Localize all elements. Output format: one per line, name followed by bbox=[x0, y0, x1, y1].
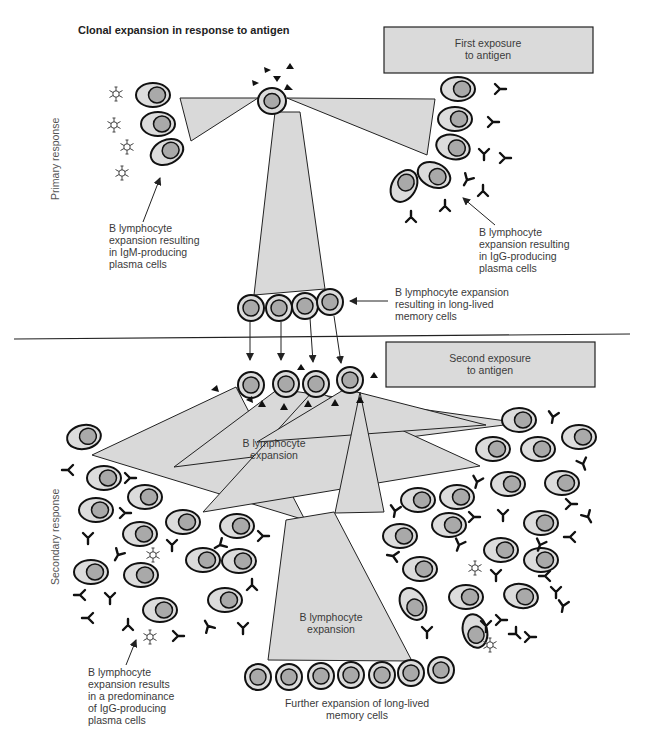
svg-text:B lymphocyte: B lymphocyte bbox=[88, 666, 151, 678]
svg-text:memory cells: memory cells bbox=[326, 709, 388, 721]
svg-text:expansion results: expansion results bbox=[88, 678, 170, 690]
svg-text:expansion: expansion bbox=[307, 623, 355, 635]
igg-expansion-label: B lymphocyte expansion resulting in IgG-… bbox=[479, 226, 570, 274]
svg-text:resulting in long-lived: resulting in long-lived bbox=[395, 298, 494, 310]
svg-text:to antigen: to antigen bbox=[467, 364, 513, 376]
svg-text:in IgG-producing: in IgG-producing bbox=[479, 250, 557, 262]
svg-text:in a predominance: in a predominance bbox=[88, 690, 175, 702]
svg-text:expansion resulting: expansion resulting bbox=[479, 238, 570, 250]
svg-text:plasma cells: plasma cells bbox=[479, 262, 537, 274]
svg-text:to antigen: to antigen bbox=[465, 49, 511, 61]
svg-text:in IgM-producing: in IgM-producing bbox=[109, 246, 187, 258]
antigen-icons-primary bbox=[252, 63, 294, 90]
svg-text:B lymphocyte: B lymphocyte bbox=[479, 226, 542, 238]
svg-text:Further expansion of long-live: Further expansion of long-lived bbox=[285, 697, 429, 709]
igm-plasma-cells bbox=[136, 83, 187, 170]
naive-b-cell bbox=[258, 88, 286, 114]
svg-text:B lymphocyte: B lymphocyte bbox=[299, 611, 362, 623]
second-exposure-box: Second exposure to antigen bbox=[386, 342, 595, 387]
svg-text:expansion resulting: expansion resulting bbox=[109, 234, 200, 246]
diagram-title: Clonal expansion in response to antigen bbox=[78, 24, 290, 36]
primary-response-label: Primary response bbox=[49, 118, 61, 200]
secondary-response-label: Secondary response bbox=[49, 489, 61, 585]
bottom-expansion-label: B lymphocyte expansion bbox=[299, 611, 362, 635]
memory-to-secondary-arrows bbox=[250, 316, 341, 363]
svg-text:plasma cells: plasma cells bbox=[88, 714, 146, 726]
svg-text:B lymphocyte: B lymphocyte bbox=[242, 437, 305, 449]
first-exposure-box: First exposure to antigen bbox=[384, 27, 593, 73]
igm-expansion-label: B lymphocyte expansion resulting in IgM-… bbox=[109, 222, 200, 270]
svg-text:of IgG-producing: of IgG-producing bbox=[88, 702, 166, 714]
igm-pentamer-icons bbox=[108, 87, 134, 180]
igm-expansion-cone bbox=[180, 98, 258, 141]
memory-cells-further bbox=[245, 657, 454, 690]
svg-text:expansion: expansion bbox=[250, 449, 298, 461]
svg-text:memory cells: memory cells bbox=[395, 310, 457, 322]
svg-text:B lymphocyte: B lymphocyte bbox=[109, 222, 172, 234]
memory-expansion-cone bbox=[254, 112, 325, 295]
further-memory-label: Further expansion of long-lived memory c… bbox=[285, 697, 429, 721]
section-divider bbox=[14, 334, 630, 339]
svg-text:Second exposure: Second exposure bbox=[449, 352, 531, 364]
igg-expansion-cone bbox=[287, 98, 435, 155]
igm-pentamer-icons-secondary bbox=[144, 548, 160, 644]
predominance-label: B lymphocyte expansion results in a pred… bbox=[88, 666, 175, 726]
svg-text:plasma cells: plasma cells bbox=[109, 258, 167, 270]
svg-text:B lymphocyte expansion: B lymphocyte expansion bbox=[395, 286, 509, 298]
memory-expansion-label: B lymphocyte expansion resulting in long… bbox=[395, 286, 509, 322]
svg-text:First exposure: First exposure bbox=[455, 37, 522, 49]
clonal-expansion-diagram: Clonal expansion in response to antigen … bbox=[0, 0, 648, 743]
secondary-expansion-label: B lymphocyte expansion bbox=[242, 437, 305, 461]
